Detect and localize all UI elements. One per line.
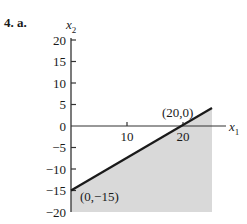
x-tick-label: 10: [115, 130, 139, 143]
y-tick-label: 0: [36, 120, 66, 133]
y-tick-label: −10: [36, 163, 66, 176]
y-tick-label: −5: [36, 141, 66, 154]
x-tick-label: 20: [171, 130, 195, 143]
annotation-20-0: (20,0): [162, 106, 193, 119]
annotation-0-neg15: (0,−15): [80, 190, 119, 203]
y-tick-label: 15: [36, 55, 66, 68]
y-tick-label: −15: [36, 184, 66, 197]
y-tick-label: −20: [36, 206, 66, 219]
y-tick-label: 20: [36, 34, 66, 47]
x-axis-label: x1: [229, 120, 239, 139]
y-axis-label: x2: [66, 18, 76, 37]
y-tick-label: 5: [36, 98, 66, 111]
y-ticks: [71, 40, 76, 191]
y-tick-label: 10: [36, 77, 66, 90]
